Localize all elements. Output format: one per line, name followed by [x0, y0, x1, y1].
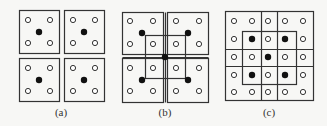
filled-dot-icon — [81, 77, 87, 83]
open-circle-icon — [173, 41, 178, 46]
open-circle-icon — [300, 89, 305, 94]
open-circle-icon — [196, 65, 201, 70]
open-circle-icon — [70, 17, 75, 22]
open-circle-icon — [231, 18, 236, 23]
caption-c: (c) — [263, 106, 275, 118]
open-circle-icon — [47, 88, 52, 93]
filled-dot-icon — [185, 30, 191, 36]
open-circle-icon — [92, 17, 97, 22]
caption-a: (a) — [55, 106, 67, 118]
open-circle-icon — [231, 54, 236, 59]
panel-c — [226, 12, 314, 101]
open-circle-icon — [265, 36, 270, 41]
open-circle-icon — [300, 36, 305, 41]
open-circle-icon — [25, 40, 30, 45]
open-circle-icon — [282, 18, 287, 23]
panel-a — [20, 11, 105, 102]
filled-dot-icon — [139, 77, 145, 83]
filled-dot-icon — [249, 36, 255, 42]
open-circle-icon — [249, 18, 254, 23]
open-circle-icon — [300, 72, 305, 77]
filled-dot-icon — [162, 54, 168, 60]
open-circle-icon — [173, 88, 178, 93]
open-circle-icon — [150, 18, 155, 23]
filled-dot-icon — [81, 29, 87, 35]
open-circle-icon — [47, 65, 52, 70]
open-circle-icon — [196, 18, 201, 23]
open-circle-icon — [196, 88, 201, 93]
open-circle-icon — [25, 88, 30, 93]
open-circle-icon — [249, 54, 254, 59]
open-circle-icon — [150, 88, 155, 93]
open-circle-icon — [265, 72, 270, 77]
open-circle-icon — [300, 54, 305, 59]
open-circle-icon — [150, 65, 155, 70]
open-circle-icon — [70, 88, 75, 93]
filled-dot-icon — [139, 30, 145, 36]
filled-dot-icon — [36, 77, 42, 83]
open-circle-icon — [127, 88, 132, 93]
panel-b — [123, 13, 209, 103]
open-circle-icon — [196, 41, 201, 46]
open-circle-icon — [265, 89, 270, 94]
filled-dot-icon — [249, 72, 255, 78]
open-circle-icon — [70, 40, 75, 45]
open-circle-icon — [300, 18, 305, 23]
open-circle-icon — [47, 17, 52, 22]
open-circle-icon — [92, 88, 97, 93]
open-circle-icon — [92, 40, 97, 45]
open-circle-icon — [25, 17, 30, 22]
filled-dot-icon — [265, 54, 271, 60]
open-circle-icon — [282, 89, 287, 94]
open-circle-icon — [150, 41, 155, 46]
open-circle-icon — [92, 65, 97, 70]
open-circle-icon — [282, 54, 287, 59]
open-circle-icon — [265, 18, 270, 23]
filled-dot-icon — [36, 29, 42, 35]
open-circle-icon — [70, 65, 75, 70]
open-circle-icon — [173, 18, 178, 23]
open-circle-icon — [47, 40, 52, 45]
caption-b: (b) — [159, 106, 172, 118]
open-circle-icon — [127, 41, 132, 46]
open-circle-icon — [231, 89, 236, 94]
filled-dot-icon — [282, 72, 288, 78]
open-circle-icon — [127, 18, 132, 23]
open-circle-icon — [173, 65, 178, 70]
open-circle-icon — [127, 65, 132, 70]
open-circle-icon — [231, 36, 236, 41]
filled-dot-icon — [282, 36, 288, 42]
filled-dot-icon — [185, 77, 191, 83]
open-circle-icon — [231, 72, 236, 77]
open-circle-icon — [249, 89, 254, 94]
open-circle-icon — [25, 65, 30, 70]
